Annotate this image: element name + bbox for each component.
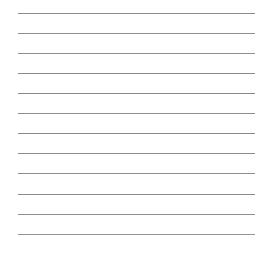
ruled-paper-page [0,0,266,253]
rule-line [18,93,255,94]
ruled-lines-container [0,0,266,253]
rule-line [18,153,255,154]
rule-line [18,214,255,215]
rule-line [18,33,255,34]
rule-line [18,173,255,174]
rule-line [18,13,255,14]
rule-line [18,194,255,195]
rule-line [18,113,255,114]
rule-line [18,234,255,235]
rule-line [18,133,255,134]
rule-line [18,73,255,74]
rule-line [18,53,255,54]
